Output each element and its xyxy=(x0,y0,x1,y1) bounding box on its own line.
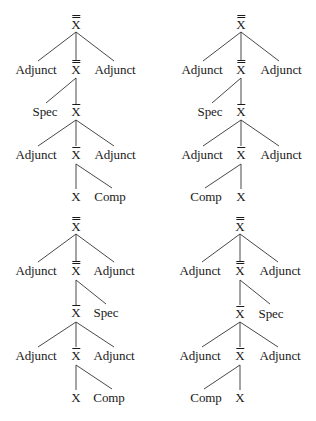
node-adjunct: Adjunct xyxy=(15,63,56,77)
node-x-double-bar: X xyxy=(235,220,244,234)
node-x-bar: X xyxy=(235,349,244,363)
node-adjunct: Adjunct xyxy=(93,264,134,278)
node-comp: Comp xyxy=(94,190,125,204)
node-adjunct: Adjunct xyxy=(259,264,300,278)
node-x-double-bar: X xyxy=(236,63,245,77)
node-adjunct: Adjunct xyxy=(15,148,56,162)
node-adjunct: Adjunct xyxy=(181,63,222,77)
node-comp: Comp xyxy=(93,391,124,405)
node-x-double-bar: X xyxy=(235,264,244,278)
node-x-bar: X xyxy=(71,148,80,162)
node-head-x: X xyxy=(236,190,245,204)
node-x-double-bar: X xyxy=(71,63,80,77)
node-adjunct: Adjunct xyxy=(260,148,301,162)
node-spec: Spec xyxy=(94,306,119,320)
node-head-x: X xyxy=(71,391,80,405)
node-x-double-bar: X xyxy=(71,220,80,234)
node-x-bar: X xyxy=(236,105,245,119)
node-adjunct: Adjunct xyxy=(260,63,301,77)
node-adjunct: Adjunct xyxy=(179,349,220,363)
node-adjunct: Adjunct xyxy=(94,148,135,162)
node-adjunct: Adjunct xyxy=(181,148,222,162)
node-comp: Comp xyxy=(190,190,221,204)
node-x-bar: X xyxy=(71,306,80,320)
node-x-bar: X xyxy=(71,349,80,363)
node-comp: Comp xyxy=(190,391,221,405)
node-head-x: X xyxy=(235,391,244,405)
node-adjunct: Adjunct xyxy=(179,264,220,278)
node-x-bar: X xyxy=(236,148,245,162)
node-x-double-bar: X xyxy=(71,18,80,32)
node-x-double-bar: X xyxy=(236,18,245,32)
node-spec: Spec xyxy=(259,307,284,321)
node-adjunct: Adjunct xyxy=(15,264,56,278)
node-spec: Spec xyxy=(33,105,58,119)
node-x-bar: X xyxy=(71,105,80,119)
node-x-bar: X xyxy=(235,307,244,321)
node-x-double-bar: X xyxy=(71,264,80,278)
node-adjunct: Adjunct xyxy=(94,63,135,77)
node-adjunct: Adjunct xyxy=(15,349,56,363)
node-adjunct: Adjunct xyxy=(259,349,300,363)
node-spec: Spec xyxy=(198,105,223,119)
node-adjunct: Adjunct xyxy=(93,349,134,363)
node-head-x: X xyxy=(71,190,80,204)
